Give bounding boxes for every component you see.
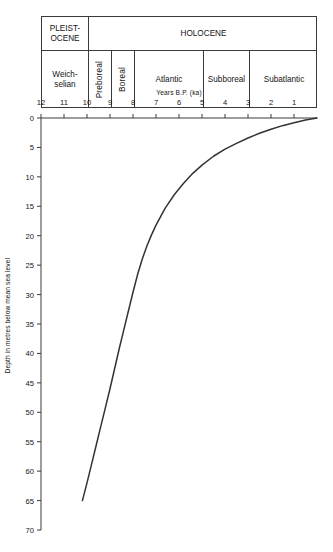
sea-level-curve-figure: PLEIST- OCENE HOLOCENE Weich- selian Pre… <box>0 0 333 552</box>
sea-level-curve <box>82 118 317 501</box>
plot-canvas <box>0 0 333 552</box>
